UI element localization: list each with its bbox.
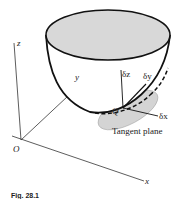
point-q-label: Q <box>112 106 119 116</box>
y-axis-label: y <box>74 72 79 82</box>
dz-label: δz <box>122 69 130 79</box>
x-axis <box>12 136 144 181</box>
origin-label: O <box>13 144 20 154</box>
tangent-plane-label: Tangent plane <box>112 126 163 136</box>
bowl-rim <box>46 10 170 60</box>
dy-label: δy <box>143 71 152 81</box>
y-axis <box>21 96 68 140</box>
z-axis <box>14 43 21 140</box>
figure-caption: Fig. 28.1 <box>11 192 39 199</box>
dx-label: δx <box>159 111 168 121</box>
surface-tangent-plane-diagram: z y x O Q δz δy δx Tangent plane Fig. 28… <box>0 0 179 199</box>
z-axis-label: z <box>16 38 21 48</box>
x-axis-label: x <box>144 176 149 186</box>
